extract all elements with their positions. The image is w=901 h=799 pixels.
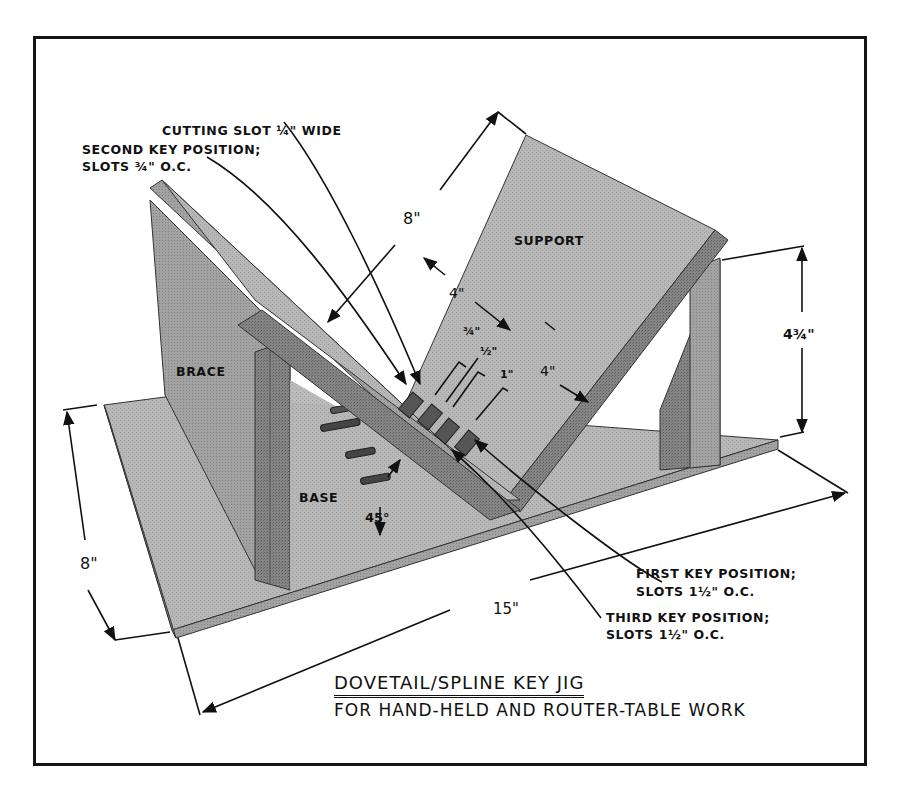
dim-base-length: 15" xyxy=(493,600,519,618)
dim-support-length: 8" xyxy=(403,209,421,228)
dim-height: 4¾" xyxy=(783,326,815,342)
callout-third-key-line1: THIRD KEY POSITION; xyxy=(606,610,770,625)
dim-key-1: 1" xyxy=(500,368,513,381)
callout-first-key-line2: SLOTS 1½" O.C. xyxy=(636,584,755,599)
callout-first-key-line1: FIRST KEY POSITION; xyxy=(636,566,796,581)
dim-angle: 45° xyxy=(365,510,390,525)
dim-slot-to-edge: 4" xyxy=(540,363,555,379)
dim-support-to-slot: 4" xyxy=(449,285,464,301)
drawing-title-text: DOVETAIL/SPLINE KEY JIG xyxy=(334,672,584,698)
label-support: SUPPORT xyxy=(514,233,584,248)
callout-second-key-line1: SECOND KEY POSITION; xyxy=(82,142,261,157)
dim-base-depth: 8" xyxy=(80,554,98,573)
dim-key-3-4: ¾" xyxy=(463,325,480,338)
drawing-title: DOVETAIL/SPLINE KEY JIG xyxy=(334,672,584,698)
label-base: BASE xyxy=(299,490,338,505)
drawing-subtitle: FOR HAND-HELD AND ROUTER-TABLE WORK xyxy=(334,700,746,720)
callout-cutting-slot: CUTTING SLOT ¼" WIDE xyxy=(162,123,342,138)
label-brace: BRACE xyxy=(176,364,226,379)
dim-key-1-2: ½" xyxy=(480,345,497,358)
callout-third-key-line2: SLOTS 1½" O.C. xyxy=(606,627,725,642)
callout-second-key-line2: SLOTS ¾" O.C. xyxy=(82,159,192,174)
